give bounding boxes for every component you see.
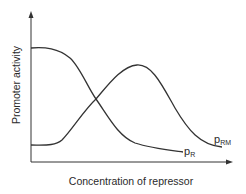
- x-axis-arrow-icon: [226, 160, 233, 165]
- x-axis-label: Concentration of repressor: [69, 175, 194, 187]
- series-pRM-line: [31, 65, 222, 147]
- series-pR-label: pR: [184, 145, 195, 158]
- chart-canvas: pRM pR Concentration of repressor Promot…: [0, 0, 246, 194]
- series-pRM-label: pRM: [214, 133, 231, 146]
- series-pR-line: [31, 48, 183, 152]
- y-axis-label: Promoter activity: [10, 45, 22, 124]
- y-axis-arrow-icon: [29, 11, 34, 18]
